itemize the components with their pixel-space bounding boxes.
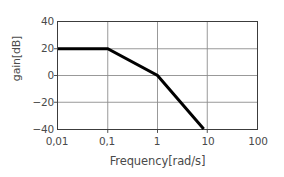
x-tick-label-0-01: 0,01 [34,136,80,147]
y-tick-label-neg20: −20 [32,97,54,108]
plot-area [57,21,258,130]
x-axis-tick-labels: 0,01 0,1 1 10 100 [0,136,284,152]
bode-magnitude-chart: 40 20 0 −20 −40 gain[dB] [0,0,284,177]
y-tick-label-neg40: −40 [32,124,54,135]
y-tick-label-0: 0 [48,70,54,81]
y-axis-title: gain[dB] [11,19,22,99]
x-tick-label-1: 1 [134,136,180,147]
x-tick-label-0-1: 0,1 [84,136,130,147]
y-tick-label-40: 40 [41,16,54,27]
x-axis-title: Frequency[rad/s] [57,155,258,167]
x-tick-label-100: 100 [235,136,281,147]
y-tick-label-20: 20 [41,43,54,54]
x-tick-label-10: 10 [185,136,231,147]
gain-curve [58,22,257,129]
